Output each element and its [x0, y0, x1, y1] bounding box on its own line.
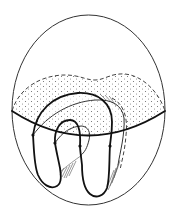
crossing-node-2	[53, 141, 56, 144]
crossing-node-4	[108, 144, 111, 147]
crossing-node-1	[31, 133, 34, 136]
hatch-left	[60, 155, 82, 178]
crossing-node-3	[78, 144, 81, 147]
ribbon-left-loop	[33, 135, 61, 187]
topology-diagram	[0, 0, 175, 218]
